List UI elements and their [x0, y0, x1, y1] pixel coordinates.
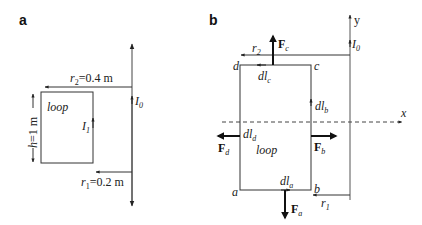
dlb-label: dlb	[315, 99, 328, 115]
r2-label: r2=0.4 m	[70, 71, 113, 87]
r1-label: r1	[321, 196, 330, 212]
dla-label: dla	[280, 174, 293, 190]
panel-b-label: b	[209, 12, 218, 28]
x-axis-label: x	[400, 106, 407, 120]
figure: a I0 r2=0.4 m loop I1 h=1 m r1=0.2 m b y…	[0, 0, 422, 225]
loop-current-label: I1	[81, 119, 90, 135]
y-axis-label: y	[354, 13, 360, 27]
force-a-label: Fa	[291, 202, 302, 218]
panel-a: a I0 r2=0.4 m loop I1 h=1 m r1=0.2 m	[19, 12, 143, 206]
corner-c-label: c	[314, 59, 320, 73]
dld-label: dld	[243, 127, 257, 143]
dlc-label: dlc	[258, 69, 271, 85]
loop-label: loop	[256, 143, 277, 157]
panel-b: b y I0 x r2 d c a b loop dlc dlb dld dla…	[209, 12, 407, 218]
r1-label: r1=0.2 m	[81, 175, 124, 191]
force-d-label: Fd	[218, 141, 230, 157]
force-c-label: Fc	[278, 37, 289, 53]
wire-current-label: I0	[134, 94, 143, 110]
r2-label: r2	[252, 41, 261, 57]
height-label: h=1 m	[26, 116, 40, 148]
wire-current-label: I0	[351, 37, 360, 53]
corner-d-label: d	[233, 59, 240, 73]
corner-b-label: b	[314, 182, 320, 196]
panel-a-label: a	[19, 12, 27, 28]
force-b-label: Fb	[314, 140, 325, 156]
loop-label: loop	[47, 100, 68, 114]
corner-a-label: a	[232, 185, 238, 199]
